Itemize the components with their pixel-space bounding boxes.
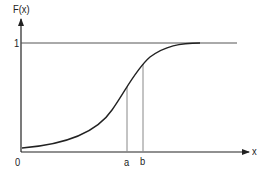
origin-label: 0 <box>15 157 20 168</box>
marker-b-label: b <box>140 156 145 167</box>
cdf-chart <box>0 0 272 177</box>
y-axis-label: F(x) <box>13 4 30 15</box>
y-tick-1-label: 1 <box>14 38 19 49</box>
x-axis-label: x <box>252 146 257 157</box>
marker-a-label: a <box>124 157 129 168</box>
cdf-curve <box>22 43 200 148</box>
